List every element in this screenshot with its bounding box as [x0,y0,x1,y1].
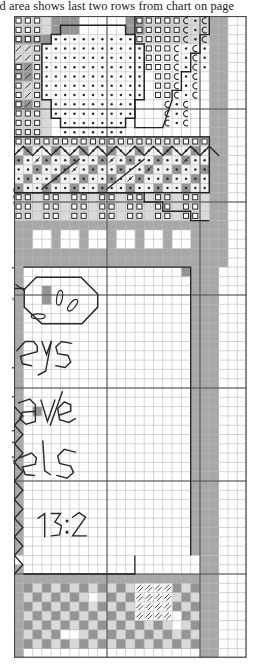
chart-canvas [14,16,248,662]
chart-page: aded area shows last two rows from chart… [0,0,257,671]
top-caption: aded area shows last two rows from chart… [0,0,257,14]
cell-fills [14,16,247,658]
chart-grid [14,16,248,662]
